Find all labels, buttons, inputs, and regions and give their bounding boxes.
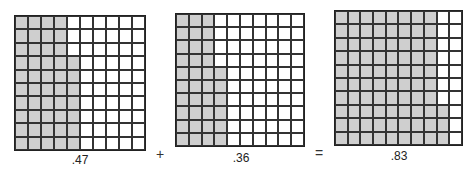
grid-cell bbox=[67, 16, 80, 29]
grid-cell bbox=[411, 78, 424, 91]
grid-cell bbox=[253, 40, 266, 53]
grid-cell bbox=[119, 16, 132, 29]
grid-cell bbox=[41, 56, 54, 69]
grid-cell bbox=[15, 110, 28, 123]
grid-cell bbox=[240, 27, 253, 40]
grid-cell bbox=[93, 110, 106, 123]
grid-cell bbox=[93, 43, 106, 56]
grid-cell bbox=[28, 29, 41, 42]
grid-cell bbox=[360, 11, 373, 24]
grid-cell bbox=[106, 29, 119, 42]
grid-cell bbox=[189, 27, 202, 40]
grid-cell bbox=[15, 83, 28, 96]
grid-cell bbox=[240, 80, 253, 93]
grid-cell bbox=[291, 27, 304, 40]
grid-cell bbox=[189, 106, 202, 119]
grid-cell bbox=[227, 120, 240, 133]
grid-cell bbox=[176, 80, 189, 93]
grid-cell bbox=[291, 93, 304, 106]
grid-cell bbox=[253, 14, 266, 27]
grid-cell bbox=[253, 120, 266, 133]
grid-cell bbox=[266, 80, 279, 93]
grid-cell bbox=[386, 91, 399, 104]
grid-cell bbox=[335, 65, 348, 78]
grid-cell bbox=[176, 106, 189, 119]
grid-cell bbox=[28, 123, 41, 136]
grid-cell bbox=[54, 56, 67, 69]
grid-cell bbox=[398, 51, 411, 64]
grid-cell bbox=[348, 65, 361, 78]
grid-cell bbox=[278, 120, 291, 133]
grid-cell bbox=[411, 118, 424, 131]
grid-cell bbox=[106, 110, 119, 123]
grid-cell bbox=[424, 51, 437, 64]
grid-cell bbox=[106, 83, 119, 96]
grid-cell bbox=[15, 43, 28, 56]
grid-cell bbox=[54, 96, 67, 109]
grid-cell bbox=[132, 70, 145, 83]
grid-cell bbox=[373, 11, 386, 24]
grid-cell bbox=[348, 78, 361, 91]
grid-cell bbox=[411, 38, 424, 51]
grid-cell bbox=[67, 110, 80, 123]
grid-cell bbox=[424, 132, 437, 145]
grid-cell bbox=[54, 16, 67, 29]
grid-cell bbox=[449, 24, 462, 37]
hundred-grid-083 bbox=[334, 10, 463, 146]
grid-cell bbox=[119, 110, 132, 123]
grid-cell bbox=[411, 105, 424, 118]
grid-cell bbox=[189, 54, 202, 67]
grid-cell bbox=[80, 16, 93, 29]
grid-cell bbox=[411, 65, 424, 78]
grid-cell bbox=[202, 40, 215, 53]
grid-cell bbox=[360, 91, 373, 104]
grid-cell bbox=[360, 105, 373, 118]
grid-cell bbox=[291, 80, 304, 93]
grid-cell bbox=[80, 29, 93, 42]
grid-cell bbox=[41, 137, 54, 150]
grid-cell bbox=[373, 38, 386, 51]
grid-cell bbox=[67, 29, 80, 42]
grid-cell bbox=[291, 120, 304, 133]
grid-cell bbox=[278, 93, 291, 106]
grid-cell bbox=[28, 16, 41, 29]
grid-cell bbox=[386, 105, 399, 118]
grid-cell bbox=[132, 29, 145, 42]
plus-sign: + bbox=[156, 146, 164, 162]
grid-cell bbox=[15, 123, 28, 136]
grid-cell bbox=[437, 78, 450, 91]
grid-cell bbox=[449, 105, 462, 118]
grid-cell bbox=[227, 40, 240, 53]
grid-cell bbox=[28, 43, 41, 56]
grid-cell bbox=[214, 106, 227, 119]
grid-cell bbox=[28, 96, 41, 109]
grid-cell bbox=[437, 51, 450, 64]
grid-cell bbox=[373, 51, 386, 64]
grid-cell bbox=[348, 38, 361, 51]
grid-cell bbox=[424, 78, 437, 91]
grid-cell bbox=[202, 133, 215, 146]
grid-cell bbox=[28, 137, 41, 150]
grid-cell bbox=[449, 78, 462, 91]
grid-cell bbox=[41, 123, 54, 136]
grid-cell bbox=[240, 120, 253, 133]
grid-cell bbox=[424, 38, 437, 51]
grid-label-047: .47 bbox=[60, 153, 100, 167]
grid-cell bbox=[424, 91, 437, 104]
grid-cell bbox=[411, 51, 424, 64]
grid-cell bbox=[119, 137, 132, 150]
grid-cell bbox=[335, 105, 348, 118]
grid-cell bbox=[386, 11, 399, 24]
grid-cell bbox=[398, 132, 411, 145]
grid-cell bbox=[227, 93, 240, 106]
grid-cell bbox=[266, 106, 279, 119]
grid-cell bbox=[240, 133, 253, 146]
grid-cell bbox=[15, 70, 28, 83]
grid-cell bbox=[132, 83, 145, 96]
grid-cell bbox=[360, 132, 373, 145]
grid-cell bbox=[93, 56, 106, 69]
grid-cell bbox=[106, 56, 119, 69]
grid-cell bbox=[41, 110, 54, 123]
grid-cell bbox=[348, 132, 361, 145]
grid-cell bbox=[54, 83, 67, 96]
